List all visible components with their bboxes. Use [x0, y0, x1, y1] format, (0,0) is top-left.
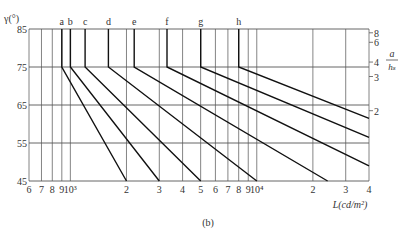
x-tick-label: 10⁴ [250, 184, 264, 195]
x-tick-label: 8 [236, 184, 241, 195]
x-tick-label: 2 [310, 184, 315, 195]
x-tick-label: 6 [213, 184, 218, 195]
x-axis-title: L(cd/m²) [332, 199, 368, 211]
x-tick-label: 8 [50, 184, 55, 195]
x-tick-label: 7 [39, 184, 44, 195]
series-label: f [165, 16, 169, 27]
series-label: h [236, 16, 241, 27]
y-tick-label: 85 [17, 24, 27, 35]
chart: 678910³2345678910⁴234857565554586432abcd… [0, 0, 403, 237]
right-axis-title-den: hₛ [388, 62, 396, 72]
series-label: b [68, 16, 73, 27]
series-label: e [132, 16, 137, 27]
y-tick-label: 45 [17, 176, 27, 187]
series-label: c [83, 16, 88, 27]
x-tick-label: 7 [225, 184, 230, 195]
right-axis-title-num: a [390, 48, 395, 59]
x-tick-label: 3 [343, 184, 348, 195]
right-tick-label: 4 [374, 57, 379, 68]
y-axis-title: γ(°) [3, 13, 19, 25]
right-tick-label: 3 [374, 72, 379, 83]
y-tick-label: 65 [17, 100, 27, 111]
x-tick-label: 6 [27, 184, 32, 195]
series-label: a [60, 16, 65, 27]
series-label: g [198, 16, 203, 27]
right-tick-label: 2 [374, 106, 379, 117]
x-tick-label: 5 [198, 184, 203, 195]
x-tick-label: 2 [124, 184, 129, 195]
figure-caption: (b) [202, 217, 214, 229]
y-tick-label: 55 [17, 138, 27, 149]
x-tick-label: 4 [367, 184, 372, 195]
right-tick-label: 6 [374, 37, 379, 48]
y-tick-label: 75 [17, 62, 27, 73]
series-label: d [106, 16, 111, 27]
x-tick-label: 4 [180, 184, 185, 195]
x-tick-label: 3 [157, 184, 162, 195]
x-tick-label: 10³ [64, 184, 77, 195]
